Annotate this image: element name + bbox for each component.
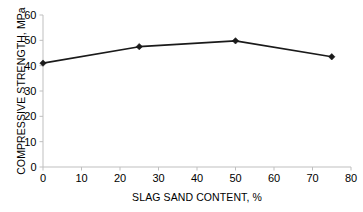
x-axis-tick-label: 10 (69, 172, 95, 184)
data-point-marker (329, 54, 335, 60)
series-line (43, 41, 332, 63)
x-axis-tick-label: 80 (338, 172, 363, 184)
x-axis-tick-label: 0 (30, 172, 56, 184)
chart-container: COMPRESSIVE STRENGTH, MPa SLAG SAND CONT… (0, 0, 363, 212)
x-axis-tick-label: 40 (184, 172, 210, 184)
data-point-marker (232, 38, 238, 44)
data-point-marker (136, 43, 142, 49)
y-axis-tick-label: 40 (11, 60, 37, 72)
y-axis-tick-label: 10 (11, 136, 37, 148)
x-axis-tick-label: 20 (107, 172, 133, 184)
x-axis-tick-label: 50 (223, 172, 249, 184)
y-axis-tick-label: 20 (11, 110, 37, 122)
y-axis-tick-label: 60 (11, 9, 37, 21)
x-axis-tick-label: 70 (300, 172, 326, 184)
x-axis-tick-label: 60 (261, 172, 287, 184)
y-axis-tick-label: 30 (11, 85, 37, 97)
y-axis-tick-label: 50 (11, 34, 37, 46)
x-axis-tick-label: 30 (146, 172, 172, 184)
x-axis-title: SLAG SAND CONTENT, % (43, 191, 351, 203)
